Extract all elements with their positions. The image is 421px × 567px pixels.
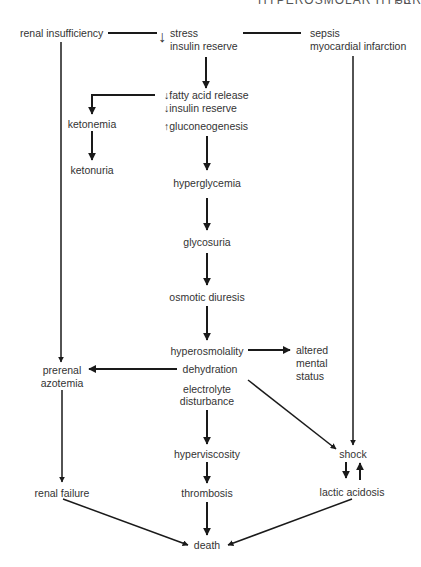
node-dehydration: dehydration xyxy=(183,363,238,376)
node-death: death xyxy=(194,539,220,552)
edge-lactic-acidosis-death xyxy=(228,499,352,545)
node-hyperglycemia: hyperglycemia xyxy=(173,177,241,190)
node-stress: stress xyxy=(170,27,198,40)
node-disturbance: disturbance xyxy=(180,395,234,408)
node-shock: shock xyxy=(339,448,366,461)
node-prerenal: prerenal xyxy=(43,364,82,377)
node-lactic-acidosis: lactic acidosis xyxy=(320,486,385,499)
node-fatty-acid-release: ↓fatty acid release xyxy=(164,89,249,102)
flowchart-edges xyxy=(0,0,421,567)
node-stress-insulin-reserve: insulin reserve xyxy=(170,40,238,53)
edge-renal-failure-death xyxy=(63,499,188,545)
node-azotemia: azotemia xyxy=(41,377,84,390)
node-electrolyte: electrolyte xyxy=(183,383,231,396)
node-gluconeogenesis: ↑gluconeogenesis xyxy=(164,120,248,133)
node-renal-failure: renal failure xyxy=(35,487,90,500)
node-hyperosmolality: hyperosmolality xyxy=(171,345,244,358)
node-ketonuria: ketonuria xyxy=(70,164,113,177)
node-osmotic-diuresis: osmotic diuresis xyxy=(169,291,244,304)
node-myocardial-infarction: myocardial infarction xyxy=(310,40,406,53)
node-renal-insufficiency: renal insufficiency xyxy=(20,27,103,40)
node-altered: altered xyxy=(296,344,328,357)
node-thrombosis: thrombosis xyxy=(181,487,232,500)
flowchart-canvas: HYPEROSMOLAR HYPERGLYCEMIC STATE 33 xyxy=(0,0,421,567)
node-status: status xyxy=(296,370,324,383)
node-glycosuria: glycosuria xyxy=(183,236,230,249)
node-hyperviscosity: hyperviscosity xyxy=(174,448,240,461)
down-arrow-icon: ↓ xyxy=(158,29,166,45)
node-insulin-reserve: ↓insulin reserve xyxy=(164,102,237,115)
node-ketonemia: ketonemia xyxy=(68,118,116,131)
edge-dehydration-shock xyxy=(248,380,336,449)
node-sepsis: sepsis xyxy=(310,27,340,40)
node-mental: mental xyxy=(296,357,328,370)
edge-fatty-acid-ketonemia xyxy=(92,95,155,114)
